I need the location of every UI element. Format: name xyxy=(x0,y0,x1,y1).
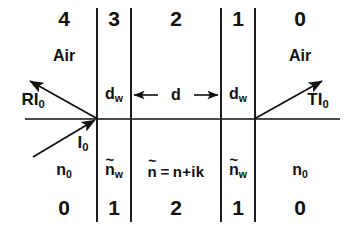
bottom-region-number-left-1: 1 xyxy=(108,197,120,218)
equals-sign: = xyxy=(160,163,169,180)
window-thickness-label-right: dw xyxy=(229,86,247,104)
tilde-icon-film: ~ xyxy=(148,155,156,169)
window-thickness-sub-right: w xyxy=(239,92,247,104)
top-region-number-4: 4 xyxy=(58,8,70,29)
bottom-region-number-2: 2 xyxy=(170,197,182,218)
top-region-number-0: 0 xyxy=(294,8,306,29)
window-thickness-base-left: d xyxy=(105,85,115,102)
transmitted-ray-label-sub: 0 xyxy=(322,98,328,110)
refractive-index-outer-left-sub: 0 xyxy=(66,168,72,180)
top-region-number-2: 2 xyxy=(170,8,182,29)
refractive-index-window-right-sub: w xyxy=(239,168,247,180)
incident-ray-label-sub: 0 xyxy=(82,141,88,153)
film-index-symbol: ~n xyxy=(148,164,157,179)
film-index-expression: n+ik xyxy=(173,163,205,180)
refractive-index-outer-right-sub: 0 xyxy=(302,168,308,180)
reflected-ray-label-sub: 0 xyxy=(38,98,44,110)
refractive-index-outer-right: n0 xyxy=(292,162,308,180)
top-region-number-1: 1 xyxy=(232,8,244,29)
bottom-region-number-left-0: 0 xyxy=(58,197,70,218)
window-thickness-label-left: dw xyxy=(105,86,123,104)
medium-name-air-left: Air xyxy=(53,48,75,64)
refractive-index-window-right: ~nw xyxy=(229,162,247,180)
transmitted-ray-label-base: TI xyxy=(307,90,322,109)
film-thickness-base: d xyxy=(171,86,181,103)
film-thickness-label: d xyxy=(171,87,181,103)
film-refractive-index-equation: ~n = n+ik xyxy=(148,164,205,179)
bottom-region-number-right-1: 1 xyxy=(232,197,244,218)
window-thickness-base-right: d xyxy=(229,85,239,102)
tilde-icon-window-left: ~ xyxy=(106,153,115,168)
top-region-number-3: 3 xyxy=(108,8,120,29)
refractive-index-outer-right-base: n xyxy=(292,161,302,178)
transmitted-ray-label: TI0 xyxy=(307,91,328,110)
window-thickness-sub-left: w xyxy=(115,92,123,104)
refractive-index-window-left: ~nw xyxy=(105,162,123,180)
bottom-region-number-right-0: 0 xyxy=(294,197,306,218)
refractive-index-window-left-symbol: ~n xyxy=(105,162,115,178)
refractive-index-outer-left: n0 xyxy=(56,162,72,180)
reflected-ray-label: RI0 xyxy=(21,91,44,110)
tilde-icon-window-right: ~ xyxy=(230,153,239,168)
incident-ray-label: I0 xyxy=(78,134,89,153)
thin-film-optics-diagram: 4 3 2 1 0 Air Air dw d dw RI0 I0 TI0 n0 … xyxy=(0,0,351,238)
medium-name-air-right: Air xyxy=(289,48,311,64)
reflected-ray-label-base: RI xyxy=(21,90,38,109)
refractive-index-window-left-sub: w xyxy=(115,168,123,180)
refractive-index-outer-left-base: n xyxy=(56,161,66,178)
refractive-index-window-right-symbol: ~n xyxy=(229,162,239,178)
